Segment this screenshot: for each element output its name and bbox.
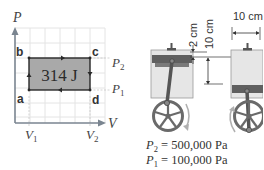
wrist-pin-left [170, 59, 174, 63]
work-label: 314 J [41, 66, 78, 85]
spark-plug-right-base [243, 48, 252, 51]
point-b-label: b [16, 45, 23, 59]
v2-label: V2 [86, 127, 98, 144]
engine-left [151, 43, 193, 131]
point-c-label: c [92, 45, 99, 59]
dim-stroke-label: 2 cm [187, 23, 199, 47]
rotation-arrow-left-head [183, 124, 189, 131]
wrist-pin-right [245, 89, 249, 93]
y-axis-label: P [12, 10, 22, 25]
rotation-arrow-right-head [229, 106, 235, 112]
point-a-label: a [17, 92, 24, 106]
p1-value-text: P1 = 100,000 Pa [145, 153, 228, 169]
x-axis-label: V [108, 116, 118, 131]
point-a-dot [28, 89, 31, 92]
spark-plug-left-base [167, 48, 176, 51]
dim-width-label: 10 cm [233, 10, 263, 22]
dim-height-label: 10 cm [203, 19, 215, 49]
p2-label: P2 [111, 55, 124, 72]
v1-label: V1 [25, 127, 37, 144]
p2-value-text: P2 = 500,000 Pa [145, 138, 228, 154]
point-c-dot [89, 57, 92, 60]
point-d-label: d [92, 93, 99, 107]
figure: 314 J P V b c a d P2 P1 V1 V2 [0, 0, 263, 170]
point-b-dot [28, 57, 31, 60]
flywheel-right-icon [235, 102, 264, 133]
p1-label: P1 [111, 81, 124, 98]
point-d-dot [89, 89, 92, 92]
engine-right [229, 43, 263, 133]
pv-diagram: 314 J P V b c a d P2 P1 V1 V2 [12, 10, 125, 144]
flywheel-left-icon [154, 100, 183, 130]
